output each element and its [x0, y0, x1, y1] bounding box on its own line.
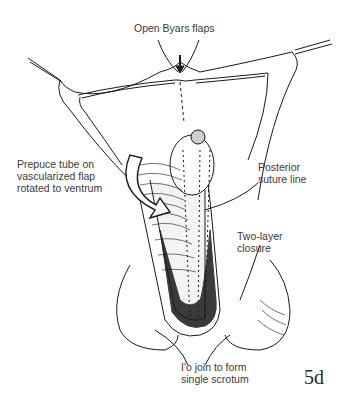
label-posterior-suture-line: Posterior suture line	[258, 161, 306, 185]
label-line: single scrotum	[181, 373, 249, 385]
label-two-layer-closure: Two-layer closure	[237, 230, 283, 254]
right-stay-suture	[295, 40, 332, 54]
label-line: Two-layer	[237, 230, 283, 242]
right-scrotal-half	[225, 260, 290, 350]
label-open-byars-flaps: Open Byars flaps	[134, 22, 215, 34]
byars-flap-outline	[78, 73, 268, 160]
figure-number: 5d	[304, 366, 324, 389]
label-line: suture line	[258, 173, 306, 185]
surgical-illustration	[0, 0, 349, 403]
label-line: rotated to ventrum	[17, 182, 102, 194]
label-line: Prepuce tube on	[17, 158, 102, 170]
label-line: Posterior	[258, 161, 306, 173]
left-stay-suture	[28, 58, 62, 82]
label-prepuce-tube: Prepuce tube on vascularized flap rotate…	[17, 158, 102, 194]
label-line: vascularized flap	[17, 170, 102, 182]
label-line: closure	[237, 242, 283, 254]
label-line: I'o join to form	[181, 361, 249, 373]
label-single-scrotum: I'o join to form single scrotum	[181, 361, 249, 385]
glans	[170, 135, 214, 195]
